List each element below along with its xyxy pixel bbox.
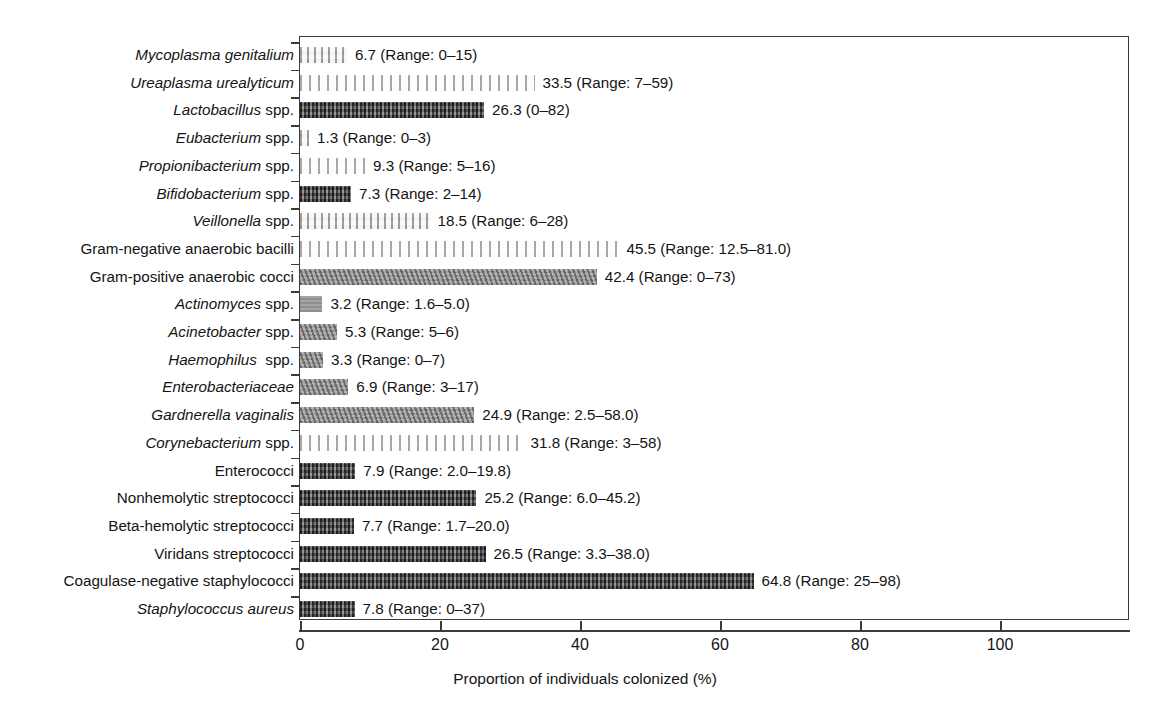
x-axis-tick-label: 80 bbox=[851, 636, 869, 654]
horizontal-bar-chart: Mycoplasma genitalium6.7 (Range: 0–15)Ur… bbox=[0, 0, 1170, 710]
category-label-italic: Staphylococcus aureus bbox=[137, 600, 294, 617]
category-label-italic: Bifidobacterium bbox=[156, 185, 261, 202]
x-axis-tick bbox=[720, 621, 722, 631]
y-axis-tick bbox=[291, 319, 300, 321]
bar bbox=[300, 269, 597, 285]
x-axis-tick-label: 0 bbox=[296, 636, 305, 654]
category-label-plain: Viridans streptococci bbox=[154, 545, 294, 562]
bar bbox=[300, 379, 348, 395]
bar-row: Corynebacterium spp.31.8 (Range: 3–58) bbox=[0, 430, 1170, 456]
category-label-plain: spp. bbox=[261, 101, 294, 118]
category-label: Eubacterium spp. bbox=[176, 125, 294, 151]
y-axis-tick bbox=[291, 541, 300, 543]
category-label-italic: Haemophilus bbox=[168, 351, 257, 368]
y-axis-tick bbox=[291, 181, 300, 183]
category-label-plain: Nonhemolytic streptococci bbox=[117, 489, 294, 506]
y-axis-tick bbox=[291, 596, 300, 598]
bar-value-label: 5.3 (Range: 5–6) bbox=[345, 319, 459, 345]
category-label: Gardnerella vaginalis bbox=[151, 402, 294, 428]
bar-row: Acinetobacter spp.5.3 (Range: 5–6) bbox=[0, 319, 1170, 345]
bar bbox=[300, 213, 430, 229]
x-axis-tick-label: 60 bbox=[711, 636, 729, 654]
category-label: Veillonella spp. bbox=[192, 208, 294, 234]
category-label: Acinetobacter spp. bbox=[168, 319, 294, 345]
category-label: Ureaplasma urealyticum bbox=[130, 70, 294, 96]
bar bbox=[300, 186, 351, 202]
category-label: Gram-positive anaerobic cocci bbox=[90, 264, 294, 290]
bar-row: Enterococci7.9 (Range: 2.0–19.8) bbox=[0, 458, 1170, 484]
bar bbox=[300, 47, 347, 63]
category-label: Staphylococcus aureus bbox=[137, 596, 294, 622]
bar-row: Propionibacterium spp.9.3 (Range: 5–16) bbox=[0, 153, 1170, 179]
bar-value-label: 7.8 (Range: 0–37) bbox=[363, 596, 485, 622]
bar bbox=[300, 241, 619, 257]
category-label-plain: spp. bbox=[261, 295, 294, 312]
y-axis-tick bbox=[291, 208, 300, 210]
category-label: Haemophilus spp. bbox=[168, 347, 294, 373]
category-label-plain: spp. bbox=[261, 323, 294, 340]
category-label-plain: spp. bbox=[261, 212, 294, 229]
category-label: Gram-negative anaerobic bacilli bbox=[80, 236, 294, 262]
category-label-plain: Beta-hemolytic streptococci bbox=[108, 517, 294, 534]
y-axis-tick bbox=[291, 458, 300, 460]
bar-value-label: 1.3 (Range: 0–3) bbox=[317, 125, 431, 151]
y-axis-tick bbox=[291, 402, 300, 404]
x-axis-title: Proportion of individuals colonized (%) bbox=[0, 670, 1170, 688]
bar bbox=[300, 601, 355, 617]
category-label: Beta-hemolytic streptococci bbox=[108, 513, 294, 539]
category-label-plain: Coagulase-negative staphylococci bbox=[64, 572, 294, 589]
bar-value-label: 6.9 (Range: 3–17) bbox=[356, 374, 478, 400]
bar-value-label: 42.4 (Range: 0–73) bbox=[605, 264, 736, 290]
y-axis-tick bbox=[291, 291, 300, 293]
category-label-italic: Ureaplasma urealyticum bbox=[130, 74, 294, 91]
bar bbox=[300, 573, 754, 589]
y-axis-tick bbox=[291, 125, 300, 127]
bar-row: Veillonella spp.18.5 (Range: 6–28) bbox=[0, 208, 1170, 234]
bar-row: Coagulase-negative staphylococci64.8 (Ra… bbox=[0, 568, 1170, 594]
y-axis-tick bbox=[291, 513, 300, 515]
bar-row: Eubacterium spp.1.3 (Range: 0–3) bbox=[0, 125, 1170, 151]
bar bbox=[300, 490, 476, 506]
category-label-plain: Gram-positive anaerobic cocci bbox=[90, 268, 294, 285]
bar-row: Haemophilus spp.3.3 (Range: 0–7) bbox=[0, 347, 1170, 373]
x-axis-tick bbox=[580, 621, 582, 631]
bar-value-label: 26.5 (Range: 3.3–38.0) bbox=[494, 541, 650, 567]
bar-row: Staphylococcus aureus7.8 (Range: 0–37) bbox=[0, 596, 1170, 622]
y-axis-tick bbox=[291, 264, 300, 266]
bar bbox=[300, 407, 474, 423]
bar bbox=[300, 130, 309, 146]
bar-row: Bifidobacterium spp.7.3 (Range: 2–14) bbox=[0, 181, 1170, 207]
bar bbox=[300, 102, 484, 118]
bar-value-label: 26.3 (0–82) bbox=[492, 97, 570, 123]
y-axis-tick bbox=[291, 42, 300, 44]
bar-rows-container: Mycoplasma genitalium6.7 (Range: 0–15)Ur… bbox=[0, 36, 1170, 620]
bar bbox=[300, 75, 535, 91]
bar-value-label: 3.3 (Range: 0–7) bbox=[331, 347, 445, 373]
y-axis-tick bbox=[291, 374, 300, 376]
bar-row: Enterobacteriaceae6.9 (Range: 3–17) bbox=[0, 374, 1170, 400]
category-label-plain: Enterococci bbox=[215, 462, 294, 479]
bar bbox=[300, 546, 486, 562]
category-label-italic: Acinetobacter bbox=[168, 323, 261, 340]
bar-value-label: 18.5 (Range: 6–28) bbox=[438, 208, 569, 234]
bar-row: Gardnerella vaginalis24.9 (Range: 2.5–58… bbox=[0, 402, 1170, 428]
bar-row: Ureaplasma urealyticum33.5 (Range: 7–59) bbox=[0, 70, 1170, 96]
category-label-italic: Corynebacterium bbox=[145, 434, 261, 451]
bar bbox=[300, 296, 322, 312]
y-axis-tick bbox=[291, 485, 300, 487]
bar-value-label: 45.5 (Range: 12.5–81.0) bbox=[627, 236, 792, 262]
bar bbox=[300, 435, 523, 451]
category-label-plain: spp. bbox=[261, 185, 294, 202]
category-label-italic: Enterobacteriaceae bbox=[162, 378, 294, 395]
x-axis-tick bbox=[440, 621, 442, 631]
bar-value-label: 7.9 (Range: 2.0–19.8) bbox=[363, 458, 511, 484]
bar-value-label: 25.2 (Range: 6.0–45.2) bbox=[484, 485, 640, 511]
bar-value-label: 33.5 (Range: 7–59) bbox=[543, 70, 674, 96]
category-label-italic: Actinomyces bbox=[175, 295, 261, 312]
bar bbox=[300, 324, 337, 340]
x-axis-tick bbox=[1000, 621, 1002, 631]
category-label-italic: Lactobacillus bbox=[173, 101, 261, 118]
y-axis-tick bbox=[291, 236, 300, 238]
y-axis-tick bbox=[291, 347, 300, 349]
category-label: Bifidobacterium spp. bbox=[156, 181, 294, 207]
